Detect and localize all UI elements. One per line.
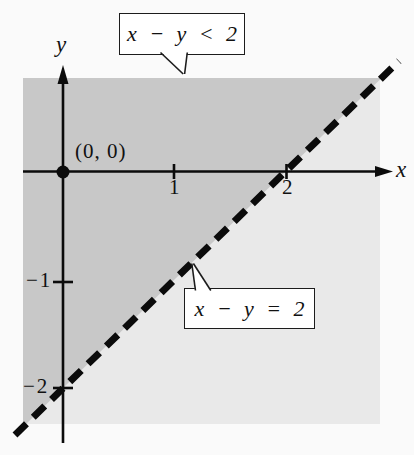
y-axis-label: y — [56, 33, 66, 56]
x-tick-label-2: 2 — [282, 177, 293, 198]
equation-callout-box: x − y = 2 — [184, 288, 315, 329]
equation-callout-text: x − y = 2 — [194, 296, 304, 322]
y-tick-label-neg1: −1 — [26, 270, 52, 291]
x-axis-label: x — [396, 158, 406, 181]
inequality-callout-box: x − y < 2 — [119, 13, 245, 55]
x-tick-label-1: 1 — [169, 177, 180, 198]
origin-point-label: (0, 0) — [75, 141, 127, 162]
y-tick-label-neg2: −2 — [23, 376, 49, 397]
y-axis-arrow-icon — [58, 65, 69, 84]
inequality-callout-text: x − y < 2 — [127, 21, 237, 47]
inequality-graph-figure: y x (0, 0) 1 2 −1 −2 x − y < 2 x − y = 2 — [0, 0, 414, 455]
origin-point-marker — [57, 166, 70, 179]
x-axis-arrow-icon — [375, 166, 393, 177]
plot-canvas — [0, 0, 414, 455]
